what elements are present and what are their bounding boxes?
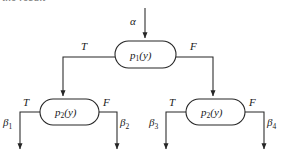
branch-label-root-false: F: [189, 40, 197, 52]
branch-label-right-true: T: [169, 96, 176, 108]
edge-root-false: [176, 57, 213, 96]
node-left-child-label: p2(y): [54, 106, 77, 120]
node-left-child[interactable]: p2(y): [40, 99, 99, 125]
edge-left-true: [20, 112, 40, 149]
output-label-beta4: β4: [266, 116, 276, 131]
edge-left-false: [99, 112, 117, 149]
edge-right-true: [166, 112, 186, 149]
node-root[interactable]: p1(y): [115, 41, 176, 68]
decision-tree-diagram: α p1(y) T F p2(y) T β1 F β: [0, 0, 284, 156]
edge-root-true: [63, 57, 115, 96]
output-label-beta3: β3: [148, 116, 158, 131]
edge-right-false: [245, 112, 264, 149]
node-right-child[interactable]: p2(y): [186, 99, 245, 125]
branch-label-root-true: T: [81, 40, 88, 52]
output-label-beta2: β2: [119, 116, 129, 131]
output-label-beta1: β1: [2, 116, 12, 131]
branch-label-left-false: F: [102, 96, 110, 108]
alpha-label: α: [130, 15, 136, 27]
node-root-label: p1(y): [129, 49, 152, 63]
figure-canvas: the result α p1(y) T F p2(y): [0, 0, 284, 156]
branch-label-left-true: T: [23, 96, 30, 108]
branch-label-right-false: F: [248, 96, 256, 108]
node-right-child-label: p2(y): [200, 106, 223, 120]
